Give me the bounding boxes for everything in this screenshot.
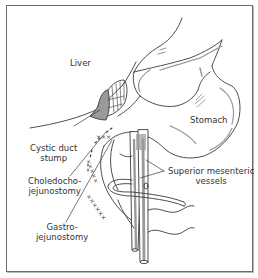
label-stomach: Stomach (190, 115, 227, 125)
cystic-duct-stump-shading (90, 90, 109, 120)
svg-text:×××: ××× (96, 133, 111, 140)
smv-leader-2 (146, 160, 164, 171)
label-choledocho-line1: Choledocho- (28, 176, 81, 186)
label-choledocho-line2: jejunostomy (28, 186, 81, 196)
label-cystic-duct-stump: Cystic duct stump (30, 143, 77, 163)
label-gastro-line1: Gastro- (36, 222, 88, 232)
label-smv-line2: vessels (168, 176, 254, 186)
label-gastrojejunostomy: Gastro- jejunostomy (36, 222, 88, 242)
stomach-fundus (134, 18, 182, 72)
label-superior-mesenteric-vessels: Superior mesenteric vessels (168, 166, 254, 186)
label-gastro-line2: jejunostomy (36, 232, 88, 242)
label-liver: Liver (70, 58, 91, 68)
anatomical-diagram: ××× ××××× ×××××× Liver (0, 0, 258, 278)
label-smv-line1: Superior mesenteric (168, 166, 254, 176)
svg-text:××××××: ×××××× (85, 193, 108, 222)
label-cystic-duct-stump-line2: stump (30, 153, 77, 163)
label-choledochojejunostomy: Choledocho- jejunostomy (28, 176, 81, 196)
svg-text:×××××: ××××× (85, 158, 100, 184)
stomach-body (166, 66, 240, 158)
label-cystic-duct-stump-line1: Cystic duct (30, 143, 77, 153)
